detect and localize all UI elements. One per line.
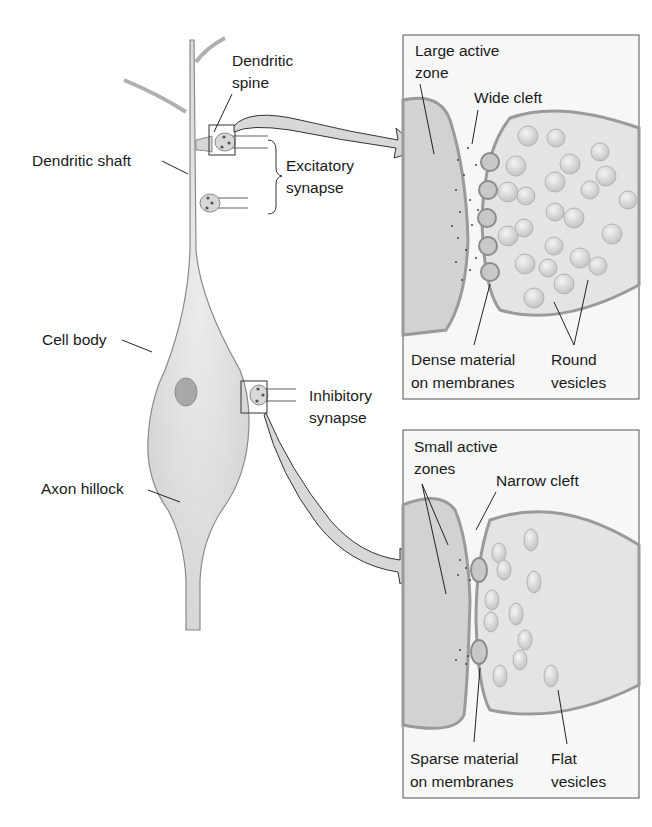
label-dendritic-spine-1: Dendritic (232, 52, 293, 69)
arrow-to-inhibitory-panel (264, 413, 424, 584)
excitatory-panel: Large active zone Wide cleft Dense mater… (403, 35, 639, 399)
label-excitatory-synapse-1: Excitatory (286, 157, 354, 174)
leader-dendritic-spine (214, 94, 232, 132)
label-flat-vesicles-1: Flat (551, 750, 578, 767)
label-small-active-zones-1: Small active (414, 438, 498, 455)
inhibitory-synapse (241, 381, 296, 413)
label-dendritic-shaft: Dendritic shaft (32, 152, 132, 169)
leader-dendritic-shaft (162, 161, 188, 174)
leader-cell-body (122, 340, 152, 352)
excitatory-synapse-lower (200, 194, 248, 212)
label-large-active-zone-1: Large active (415, 42, 499, 59)
dendrite-branch-top (196, 38, 225, 62)
label-inhibitory-synapse-2: synapse (309, 409, 367, 426)
dendrite-branch-left (124, 80, 186, 112)
label-wide-cleft: Wide cleft (474, 89, 543, 106)
label-narrow-cleft: Narrow cleft (496, 472, 579, 489)
label-cell-body: Cell body (42, 331, 107, 348)
excitatory-brace (268, 140, 282, 214)
inhibitory-presynaptic-terminal (403, 499, 470, 729)
label-round-vesicles-1: Round (551, 351, 597, 368)
label-axon-hillock: Axon hillock (41, 480, 124, 497)
synapse-diagram: Dendritic spine Dendritic shaft Excitato… (0, 0, 652, 827)
label-sparse-material-2: on membranes (410, 773, 514, 790)
nucleus (175, 378, 197, 406)
dendritic-spine (196, 136, 212, 152)
label-small-active-zones-2: zones (414, 460, 456, 477)
label-round-vesicles-2: vesicles (551, 374, 606, 391)
label-large-active-zone-2: zone (415, 64, 449, 81)
label-sparse-material-1: Sparse material (410, 750, 519, 767)
label-flat-vesicles-2: vesicles (551, 773, 606, 790)
inhibitory-panel: Small active zones Narrow cleft Sparse m… (403, 430, 639, 798)
label-dendritic-spine-2: spine (232, 74, 269, 91)
label-excitatory-synapse-2: synapse (286, 179, 344, 196)
label-dense-material-2: on membranes (411, 374, 515, 391)
label-dense-material-1: Dense material (411, 351, 515, 368)
neuron (124, 38, 249, 630)
label-inhibitory-synapse-1: Inhibitory (309, 387, 372, 404)
